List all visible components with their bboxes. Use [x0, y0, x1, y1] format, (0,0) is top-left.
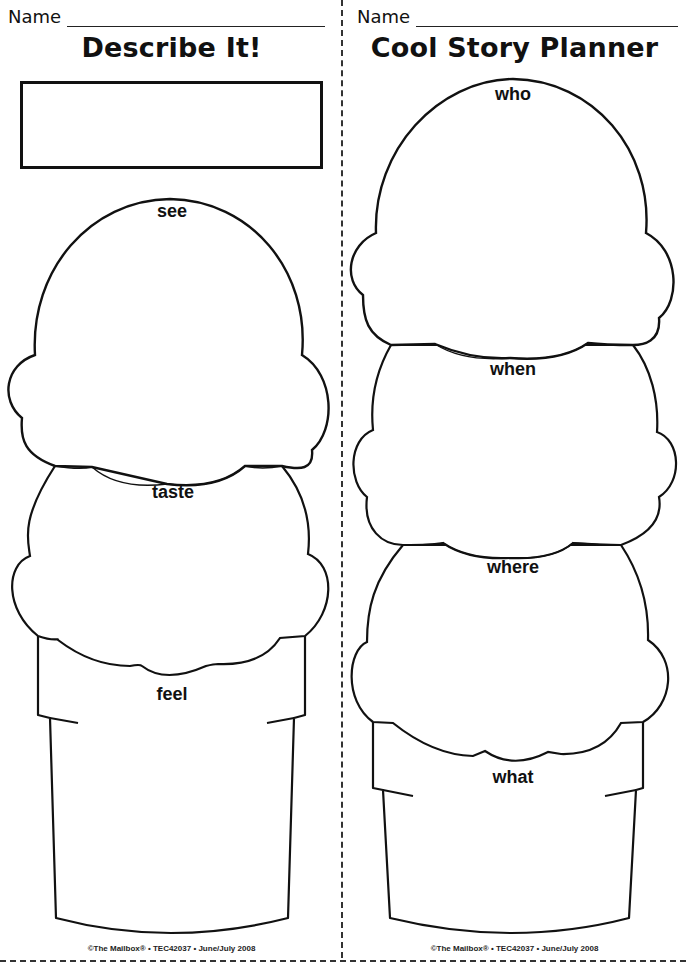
- scoop-label-who: who: [453, 84, 573, 105]
- scoop-label-taste: taste: [113, 482, 233, 503]
- horizontal-cut-line: [0, 960, 686, 962]
- cone-label-feel: feel: [112, 684, 232, 705]
- scoop-label-where: where: [453, 557, 573, 578]
- scoop-label-see: see: [112, 201, 232, 222]
- cone-shape: [38, 636, 305, 933]
- ice-cream-cone-illustration: [343, 0, 686, 969]
- cool-story-planner-worksheet: Name Cool Story Planner who when where w…: [343, 0, 686, 969]
- vertical-cut-line: [341, 0, 343, 958]
- cone-label-what: what: [453, 767, 573, 788]
- copyright-footer: ©The Mailbox® • TEC42037 • June/July 200…: [343, 944, 686, 953]
- copyright-footer: ©The Mailbox® • TEC42037 • June/July 200…: [0, 944, 343, 953]
- scoop-label-when: when: [453, 359, 573, 380]
- scoop-see: [8, 199, 328, 485]
- scoop-who: [351, 79, 674, 359]
- describe-it-worksheet: Name Describe It! see taste feel ©The Ma…: [0, 0, 343, 969]
